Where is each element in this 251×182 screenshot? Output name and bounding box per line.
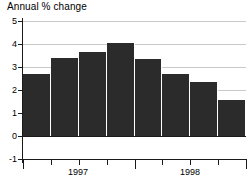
x-axis-tick <box>79 160 80 165</box>
y-axis-tick <box>18 67 23 68</box>
y-axis-tick <box>18 44 23 45</box>
y-axis-tick <box>18 113 23 114</box>
x-axis-major-tick <box>135 160 136 169</box>
bar <box>79 52 107 136</box>
y-axis-label: 0 <box>1 132 17 141</box>
y-axis-tick <box>18 136 23 137</box>
bar-chart: Annual % change 543210-1 19971998 <box>0 0 251 182</box>
x-axis-label: 1997 <box>58 167 98 177</box>
y-axis-label: 4 <box>1 40 17 49</box>
bar <box>51 58 79 136</box>
x-axis-tick <box>107 160 108 165</box>
x-axis-tick <box>162 160 163 165</box>
y-axis-label: 2 <box>1 86 17 95</box>
x-axis-end-tick <box>23 160 24 169</box>
x-axis-tick <box>190 160 191 165</box>
bar <box>23 74 51 136</box>
bar <box>218 100 246 136</box>
bar <box>135 59 163 136</box>
y-axis-label: -1 <box>1 155 17 164</box>
y-axis-label: 5 <box>1 17 17 26</box>
x-axis-tick <box>218 160 219 165</box>
y-axis-labels: 543210-1 <box>0 0 17 182</box>
x-axis-label: 1998 <box>170 167 210 177</box>
x-axis-end-tick <box>246 160 247 169</box>
y-axis-tick <box>18 21 23 22</box>
y-axis-label: 1 <box>1 109 17 118</box>
bar-series <box>23 0 246 182</box>
bar <box>107 43 135 136</box>
x-axis-tick <box>51 160 52 165</box>
bar <box>162 74 190 136</box>
y-axis-tick <box>18 90 23 91</box>
bar <box>190 82 218 136</box>
y-axis-label: 3 <box>1 63 17 72</box>
